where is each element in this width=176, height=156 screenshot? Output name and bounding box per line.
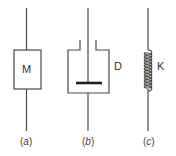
damper-element [68, 8, 109, 131]
caption-c: (c) [143, 137, 155, 147]
damper-label: D [114, 61, 122, 72]
diagram-canvas [0, 0, 176, 156]
mass-label: M [22, 64, 31, 75]
caption-b: (b) [82, 137, 94, 147]
spring-coil [144, 50, 152, 91]
spring-element [144, 8, 152, 131]
spring-label: K [157, 61, 164, 72]
caption-a: (a) [20, 137, 32, 147]
